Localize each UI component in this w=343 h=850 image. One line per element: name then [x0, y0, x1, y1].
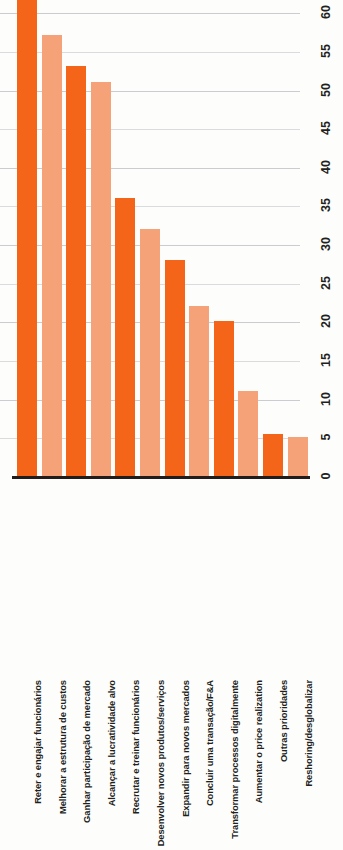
bar-2 [42, 35, 62, 476]
category-label-2: Melhorar a estrutura de custos [57, 680, 68, 850]
value-axis: 051015202530354045505560 [312, 0, 343, 478]
category-label-6: Desenvolver novos produtos/serviços [155, 680, 166, 850]
bar-7 [165, 260, 185, 476]
category-label-4: Alcançar a lucratividade alvo [106, 680, 117, 850]
category-axis-line [12, 476, 310, 479]
value-tick-50: 50 [319, 75, 333, 105]
bar-9 [214, 321, 234, 476]
category-label-7: Expandir para novos mercados [180, 680, 191, 850]
category-label-10: Aumentar o price realization [253, 680, 264, 850]
value-tick-15: 15 [319, 345, 333, 375]
value-tick-30: 30 [319, 229, 333, 259]
plot-area [0, 0, 300, 478]
bars-group [0, 0, 300, 477]
value-tick-45: 45 [319, 113, 333, 143]
bar-11 [263, 434, 283, 477]
category-labels: Reter e engajar funcionáriosMelhorar a e… [0, 480, 343, 684]
value-tick-5: 5 [319, 422, 333, 452]
category-label-8: Concluir uma transação/F&A [204, 680, 215, 850]
value-tick-40: 40 [319, 152, 333, 182]
value-tick-25: 25 [319, 268, 333, 298]
category-label-11: Outras prioridades [278, 680, 289, 850]
category-label-1: Reter e engajar funcionários [32, 680, 43, 850]
bar-10 [238, 391, 258, 476]
bar-6 [140, 229, 160, 476]
bar-4 [91, 82, 111, 476]
value-tick-10: 10 [319, 384, 333, 414]
category-label-12: Reshoring/desglobalizar [303, 680, 314, 850]
value-tick-55: 55 [319, 36, 333, 66]
category-label-3: Ganhar participação de mercado [81, 680, 92, 850]
value-tick-60: 60 [319, 0, 333, 27]
category-label-9: Transformar processos digitalmente [229, 680, 240, 850]
category-label-5: Recrutar e treinar funcionários [130, 680, 141, 850]
bar-3 [66, 66, 86, 476]
bar-8 [189, 306, 209, 476]
value-tick-20: 20 [319, 306, 333, 336]
bar-1 [17, 0, 37, 476]
value-tick-35: 35 [319, 190, 333, 220]
bar-5 [115, 198, 135, 476]
bar-12 [288, 437, 308, 476]
